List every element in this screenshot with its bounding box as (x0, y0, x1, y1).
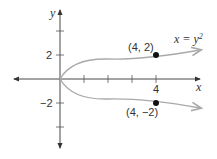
x-tick-label-4: 4 (153, 83, 159, 95)
equation-label: x = y2 (173, 32, 203, 46)
x-axis-label: x (195, 80, 202, 94)
parabola-upper-branch (60, 50, 200, 79)
point-upper-label: (4, 2) (128, 41, 154, 53)
point-upper (153, 52, 159, 58)
y-tick-label-2: 2 (46, 49, 52, 61)
point-lower-label: (4, −2) (126, 106, 158, 118)
y-tick-label-neg2: −2 (40, 97, 53, 109)
parabola-lower-branch (60, 79, 200, 108)
y-axis-label: y (49, 6, 56, 20)
parabola-graph: y x 2 −2 4 (4, 2) (4, −2) x = y2 (0, 0, 217, 159)
